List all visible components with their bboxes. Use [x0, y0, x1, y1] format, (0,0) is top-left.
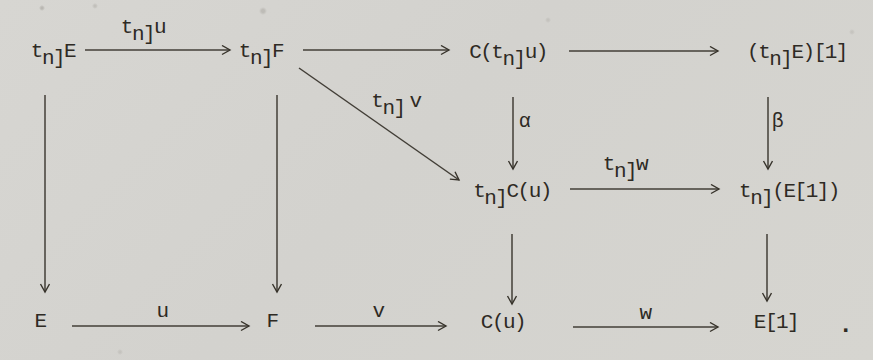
node-text-pre: C(t	[469, 41, 502, 64]
node-C-u: C(u)	[481, 312, 525, 333]
node-text-pre: t	[739, 180, 750, 203]
node-tn-E: tn]E	[31, 41, 75, 62]
label-text-sub: n]	[614, 159, 636, 182]
node-text-post: u)	[525, 41, 547, 64]
label-v: v	[372, 301, 383, 322]
node-text-sub: n]	[42, 46, 64, 69]
end-period: .	[839, 314, 852, 338]
label-text-pre: t	[603, 153, 614, 176]
node-text-sub: n]	[769, 47, 791, 70]
label-text-pre: t	[371, 90, 382, 113]
node-text-sub: n]	[250, 46, 272, 69]
label-text-post: w	[636, 153, 647, 176]
node-text-sub: n]	[484, 186, 506, 209]
node-text-post: E)[1]	[791, 41, 847, 64]
node-F: F	[266, 311, 277, 332]
node-text-pre: t	[31, 40, 42, 63]
node-tn-E-shift: (tn]E)[1]	[747, 42, 847, 63]
node-tn-F: tn]F	[239, 41, 283, 62]
label-w: w	[639, 303, 650, 324]
scanned-page: tn]E tn]F C(tn]u) (tn]E)[1] tn]C(u) tn](…	[0, 0, 873, 360]
node-E: E	[34, 311, 45, 332]
label-tn-v: tn]v	[371, 91, 420, 112]
node-text-pre: t	[473, 180, 484, 203]
label-text-sub: n]	[382, 96, 404, 119]
node-text-pre: t	[239, 40, 250, 63]
label-text-post: u	[154, 16, 165, 39]
node-text-sub: n]	[750, 186, 772, 209]
node-text-sub: n]	[502, 47, 524, 70]
label-text-post: v	[405, 90, 421, 113]
node-C-tn-u: C(tn]u)	[469, 42, 547, 63]
arrow-tnF-to-tnCu-diagonal	[299, 68, 459, 180]
node-tn-C-u: tn]C(u)	[473, 181, 551, 202]
node-text-post: F	[272, 40, 283, 63]
label-text-pre: t	[121, 16, 132, 39]
label-tn-w: tn]w	[603, 154, 647, 175]
label-alpha: α	[519, 112, 530, 132]
node-tn-E1: tn](E[1])	[739, 181, 839, 202]
node-text-post: C(u)	[506, 180, 550, 203]
label-tn-u: tn]u	[121, 17, 165, 38]
node-text-pre: (t	[747, 41, 769, 64]
label-text-sub: n]	[132, 22, 154, 45]
label-u: u	[156, 301, 167, 322]
label-beta: β	[772, 112, 783, 132]
node-E-shift-1: E[1]	[754, 312, 798, 333]
node-text-post: E	[64, 40, 75, 63]
node-text-post: (E[1])	[772, 180, 839, 203]
